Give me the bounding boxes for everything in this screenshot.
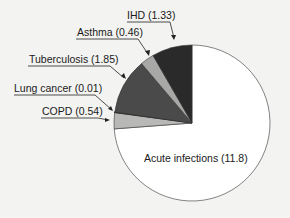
label-lung-cancer: Lung cancer (0.01) bbox=[14, 82, 102, 94]
pie-slices bbox=[114, 45, 270, 201]
label-acute-infections: Acute infections (11.8) bbox=[144, 152, 248, 164]
pie-chart: IHD (1.33) Asthma (0.46) Tuberculosis (1… bbox=[0, 0, 290, 218]
label-tuberculosis: Tuberculosis (1.85) bbox=[29, 53, 118, 65]
label-copd: COPD (0.54) bbox=[42, 105, 103, 117]
label-asthma: Asthma (0.46) bbox=[77, 26, 143, 38]
label-ihd: IHD (1.33) bbox=[127, 9, 175, 21]
